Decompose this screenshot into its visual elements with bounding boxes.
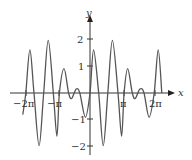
x-axis-arrow-icon: [168, 90, 175, 96]
y-tick-label-2: 2: [77, 34, 83, 45]
x-axis-label: x: [178, 87, 184, 98]
chart: y x 2 1 −1 −2 −2π −π π 2π: [0, 0, 192, 160]
y-tick-label-neg2: −2: [71, 141, 86, 152]
y-tick-label-neg1: −1: [71, 114, 86, 125]
x-tick-label-negpi: −π: [47, 98, 62, 109]
x-tick-label-pi: π: [120, 98, 127, 109]
x-tick-label-neg2pi: −2π: [13, 98, 35, 109]
y-axis-label: y: [85, 7, 92, 18]
y-tick-label-1: 1: [78, 61, 84, 72]
x-tick-label-2pi: 2π: [149, 98, 162, 109]
